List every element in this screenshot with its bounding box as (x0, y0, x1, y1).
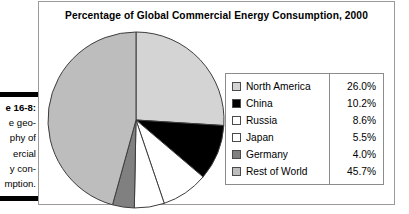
caption-line-4: y con- (0, 161, 36, 176)
caption-line-2: phy of (0, 130, 36, 145)
caption-rule-bottom (0, 196, 38, 201)
legend-row-russia: Russia (232, 112, 329, 129)
legend-row-japan: Japan (232, 129, 329, 146)
legend-value-rest-of-world: 45.7% (330, 163, 376, 180)
legend-swatch-icon-north-america (232, 82, 241, 91)
legend-value-north-america: 26.0% (330, 78, 376, 95)
legend-swatch-icon-japan (232, 133, 241, 142)
legend-swatch-icon-russia (232, 116, 241, 125)
chart-title: Percentage of Global Commercial Energy C… (39, 10, 394, 21)
legend-value-russia: 8.6% (330, 112, 376, 129)
pie-chart (46, 30, 226, 210)
legend-swatch-icon-rest-of-world (232, 167, 241, 176)
caption-line-1: e geo- (0, 115, 36, 130)
legend-label-rest-of-world: Rest of World (246, 166, 308, 177)
legend-label-russia: Russia (246, 115, 277, 126)
legend-swatch-icon-germany (232, 150, 241, 159)
legend-value-germany: 4.0% (330, 146, 376, 163)
legend-row-rest-of-world: Rest of World (232, 163, 329, 180)
legend-label-germany: Germany (246, 149, 288, 160)
pie-chart-svg (46, 30, 226, 210)
legend-value-column: 26.0%10.2%8.6%5.5%4.0%45.7% (330, 74, 383, 184)
legend-value-china: 10.2% (330, 95, 376, 112)
legend-label-china: China (246, 98, 273, 109)
caption-line-0: e 16-8: (0, 100, 36, 115)
legend-label-north-america: North America (246, 81, 311, 92)
figure-caption-text: e 16-8:e geo-phy ofercialy con-mption. (0, 100, 36, 191)
caption-line-3: ercial (0, 146, 36, 161)
caption-rule-top (0, 92, 38, 97)
figure-caption-block: e 16-8:e geo-phy ofercialy con-mption. (0, 0, 38, 214)
pie-slices (48, 32, 224, 208)
legend-label-column: North AmericaChinaRussiaJapanGermanyRest… (226, 74, 330, 184)
chart-legend: North AmericaChinaRussiaJapanGermanyRest… (225, 73, 384, 185)
legend-row-china: China (232, 95, 329, 112)
legend-swatch-icon-china (232, 99, 241, 108)
figure-frame: Percentage of Global Commercial Energy C… (38, 1, 395, 205)
caption-line-5: mption. (0, 176, 36, 191)
legend-value-japan: 5.5% (330, 129, 376, 146)
legend-row-germany: Germany (232, 146, 329, 163)
legend-label-japan: Japan (246, 132, 274, 143)
pie-slice-north-america (136, 32, 224, 126)
legend-row-north-america: North America (232, 78, 329, 95)
